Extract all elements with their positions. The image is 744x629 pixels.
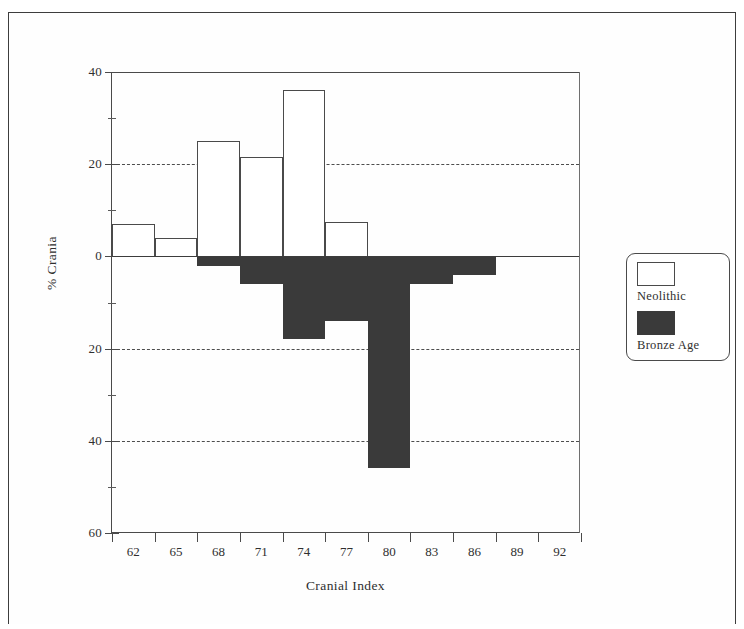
y-tick-label: 60 xyxy=(88,525,102,541)
x-tick-mark xyxy=(410,533,411,542)
bar-neolithic-62 xyxy=(112,224,155,256)
x-tick-mark xyxy=(538,533,539,542)
y-tick-label: 40 xyxy=(88,64,102,80)
zero-baseline xyxy=(112,256,579,257)
x-tick-mark xyxy=(197,533,198,542)
x-tick-mark xyxy=(325,533,326,542)
y-tick-mark xyxy=(105,164,119,165)
x-tick-label: 65 xyxy=(169,544,182,560)
y-tick-label: 40 xyxy=(88,433,102,449)
gridline xyxy=(112,441,579,442)
x-tick-label: 68 xyxy=(212,544,225,560)
bar-bronze-age-71 xyxy=(240,256,283,284)
y-tick-mark xyxy=(105,72,119,73)
bar-bronze-age-74 xyxy=(283,256,326,339)
legend-swatch-bronze-age xyxy=(637,311,675,335)
x-axis-title: Cranial Index xyxy=(111,578,580,594)
x-tick-label: 71 xyxy=(255,544,268,560)
chart-figure: 40200204060 6265687174778083868992 Crani… xyxy=(0,0,744,629)
x-tick-label: 86 xyxy=(468,544,481,560)
bar-bronze-age-86 xyxy=(453,256,496,274)
x-tick-mark xyxy=(155,533,156,542)
y-minor-tick xyxy=(108,118,116,119)
legend-label-neolithic: Neolithic xyxy=(637,289,729,304)
bar-bronze-age-77 xyxy=(325,256,368,321)
y-minor-tick xyxy=(108,487,116,488)
legend-swatch-neolithic xyxy=(637,262,675,286)
x-tick-mark xyxy=(240,533,241,542)
x-tick-mark xyxy=(368,533,369,542)
x-tick-label: 80 xyxy=(383,544,396,560)
gridline xyxy=(112,164,579,165)
y-tick-mark xyxy=(105,349,119,350)
y-tick-mark xyxy=(105,441,119,442)
y-minor-tick xyxy=(108,303,116,304)
gridline xyxy=(112,349,579,350)
bar-neolithic-77 xyxy=(325,222,368,257)
plot-top-rule xyxy=(112,72,579,73)
y-axis-title: % Crania xyxy=(44,236,60,290)
y-minor-tick xyxy=(108,395,116,396)
x-tick-label: 92 xyxy=(553,544,566,560)
x-tick-mark xyxy=(496,533,497,542)
bar-neolithic-65 xyxy=(155,238,198,256)
x-tick-label: 74 xyxy=(297,544,310,560)
x-tick-mark xyxy=(112,533,113,542)
x-tick-mark xyxy=(453,533,454,542)
x-tick-label: 77 xyxy=(340,544,353,560)
bar-neolithic-71 xyxy=(240,157,283,256)
plot-area: 40200204060 6265687174778083868992 xyxy=(111,72,580,533)
y-tick-label: 0 xyxy=(95,248,102,264)
x-tick-label: 62 xyxy=(127,544,140,560)
chart-legend: NeolithicBronze Age xyxy=(626,253,730,361)
bar-bronze-age-68 xyxy=(197,256,240,265)
x-tick-label: 89 xyxy=(511,544,524,560)
bar-neolithic-74 xyxy=(283,90,326,256)
bar-bronze-age-83 xyxy=(410,256,453,284)
y-tick-label: 20 xyxy=(88,156,102,172)
y-tick-label: 20 xyxy=(88,341,102,357)
x-tick-mark xyxy=(283,533,284,542)
y-minor-tick xyxy=(108,210,116,211)
x-tick-label: 83 xyxy=(425,544,438,560)
bar-neolithic-68 xyxy=(197,141,240,256)
plot-bottom-rule xyxy=(112,532,579,533)
bar-bronze-age-80 xyxy=(368,256,411,468)
x-tick-mark xyxy=(581,533,582,542)
legend-label-bronze-age: Bronze Age xyxy=(637,338,729,353)
